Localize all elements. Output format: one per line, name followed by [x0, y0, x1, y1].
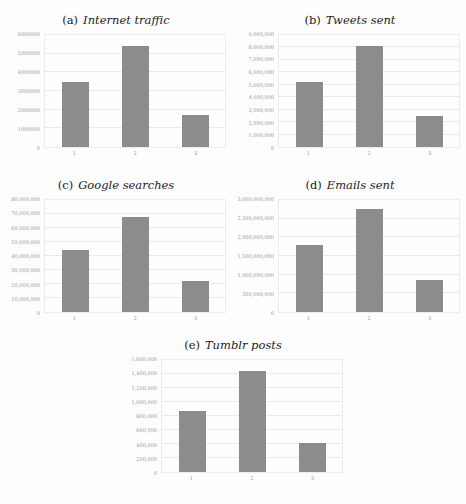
charts-row-3: (e)Tumblr posts 1,600,0001,400,0001,200,…: [123, 337, 343, 481]
y-tick-label: 800,000: [136, 414, 157, 419]
y-tick-label: 5,000,000: [249, 82, 274, 87]
bar-slot: [165, 200, 225, 312]
y-tick-label: 2,500,000,000: [237, 216, 274, 221]
bar: [356, 46, 383, 147]
y-tick-label: 200,000: [136, 456, 157, 461]
y-tick-label: 3000000: [18, 89, 40, 94]
bars-layer: [162, 360, 342, 472]
plot-area: [278, 199, 460, 313]
y-axis-labels: 1,600,0001,400,0001,200,0001,000,000800,…: [123, 359, 161, 473]
y-tick-label: 40,000,000: [11, 254, 40, 259]
bar: [122, 217, 149, 312]
x-axis-labels: 123: [161, 476, 343, 481]
x-tick-label: 1: [44, 151, 105, 156]
y-tick-label: 0: [154, 471, 157, 476]
y-tick-label: 2,000,000: [249, 120, 274, 125]
y-tick-label: 1,400,000: [132, 371, 157, 376]
x-tick-label: 1: [278, 151, 339, 156]
bar-slot: [279, 35, 339, 147]
y-tick-label: 0: [271, 311, 274, 316]
y-tick-label: 2000000: [18, 108, 40, 113]
plot-area: [44, 199, 226, 313]
bar-slot: [165, 35, 225, 147]
caption-title: Internet traffic: [83, 13, 170, 27]
y-tick-label: 0: [37, 146, 40, 151]
plot-area: [161, 359, 343, 473]
bar-slot: [279, 200, 339, 312]
y-tick-label: 6000000: [18, 32, 40, 37]
bar: [416, 280, 443, 312]
subfigure-grid: (a)Internet traffic 60000005000000400000…: [0, 0, 466, 504]
y-tick-label: 7,000,000: [249, 57, 274, 62]
bar-slot: [282, 360, 342, 472]
bars-layer: [279, 200, 459, 312]
bar: [62, 250, 89, 312]
plot-row: 80,000,00070,000,00060,000,00050,000,000…: [6, 199, 226, 313]
y-axis-labels: 9,000,0008,000,0007,000,0006,000,0005,00…: [240, 34, 278, 148]
bar: [62, 82, 89, 147]
bar: [182, 115, 209, 147]
bar: [296, 245, 323, 312]
bar-slot: [339, 200, 399, 312]
bar: [416, 116, 443, 147]
bars-layer: [279, 35, 459, 147]
bar-slot: [105, 200, 165, 312]
bar-slot: [339, 35, 399, 147]
bar: [356, 209, 383, 312]
y-axis-labels: 6000000500000040000003000000200000010000…: [6, 34, 44, 148]
chart-google-searches: (c)Google searches 80,000,00070,000,0006…: [6, 177, 226, 321]
x-tick-label: 3: [399, 316, 460, 321]
bar-slot: [399, 200, 459, 312]
x-axis-labels: 123: [278, 316, 460, 321]
chart-caption: (d)Emails sent: [240, 177, 460, 193]
x-tick-label: 2: [105, 316, 166, 321]
bar: [179, 411, 206, 472]
x-tick-label: 1: [44, 316, 105, 321]
x-tick-label: 3: [165, 151, 226, 156]
y-tick-label: 500,000,000: [242, 292, 274, 297]
plot-area: [44, 34, 226, 148]
plot-row: 6000000500000040000003000000200000010000…: [6, 34, 226, 148]
bar: [299, 443, 326, 472]
chart-internet-traffic: (a)Internet traffic 60000005000000400000…: [6, 12, 226, 156]
chart-caption: (a)Internet traffic: [6, 12, 226, 28]
plot-row: 3,000,000,0002,500,000,0002,000,000,0001…: [240, 199, 460, 313]
caption-label: (a): [62, 13, 78, 27]
y-tick-label: 1,500,000,000: [237, 254, 274, 259]
y-tick-label: 600,000: [136, 428, 157, 433]
y-axis-labels: 3,000,000,0002,500,000,0002,000,000,0001…: [240, 199, 278, 313]
charts-row-2: (c)Google searches 80,000,00070,000,0006…: [6, 177, 460, 321]
plot-row: 9,000,0008,000,0007,000,0006,000,0005,00…: [240, 34, 460, 148]
chart-caption: (c)Google searches: [6, 177, 226, 193]
x-axis-labels: 123: [44, 151, 226, 156]
y-tick-label: 5000000: [18, 51, 40, 56]
x-tick-label: 3: [282, 476, 343, 481]
x-tick-label: 3: [165, 316, 226, 321]
bar: [296, 82, 323, 147]
bar-slot: [45, 200, 105, 312]
caption-label: (c): [58, 178, 73, 192]
y-tick-label: 60,000,000: [11, 225, 40, 230]
caption-title: Google searches: [78, 178, 174, 192]
chart-emails-sent: (d)Emails sent 3,000,000,0002,500,000,00…: [240, 177, 460, 321]
y-tick-label: 400,000: [136, 442, 157, 447]
plot-row: 1,600,0001,400,0001,200,0001,000,000800,…: [123, 359, 343, 473]
y-tick-label: 3,000,000: [249, 108, 274, 113]
x-tick-label: 2: [339, 151, 400, 156]
y-tick-label: 3,000,000,000: [237, 197, 274, 202]
bar-slot: [45, 35, 105, 147]
y-axis-labels: 80,000,00070,000,00060,000,00050,000,000…: [6, 199, 44, 313]
y-tick-label: 2,000,000,000: [237, 235, 274, 240]
caption-title: Tweets sent: [326, 13, 396, 27]
caption-label: (e): [184, 338, 200, 352]
bars-layer: [45, 35, 225, 147]
bar: [182, 281, 209, 312]
y-tick-label: 0: [37, 311, 40, 316]
x-tick-label: 1: [278, 316, 339, 321]
x-tick-label: 1: [161, 476, 222, 481]
y-tick-label: 70,000,000: [11, 211, 40, 216]
chart-tweets-sent: (b)Tweets sent 9,000,0008,000,0007,000,0…: [240, 12, 460, 156]
x-axis-labels: 123: [44, 316, 226, 321]
y-tick-label: 9,000,000: [249, 32, 274, 37]
caption-label: (b): [305, 13, 321, 27]
